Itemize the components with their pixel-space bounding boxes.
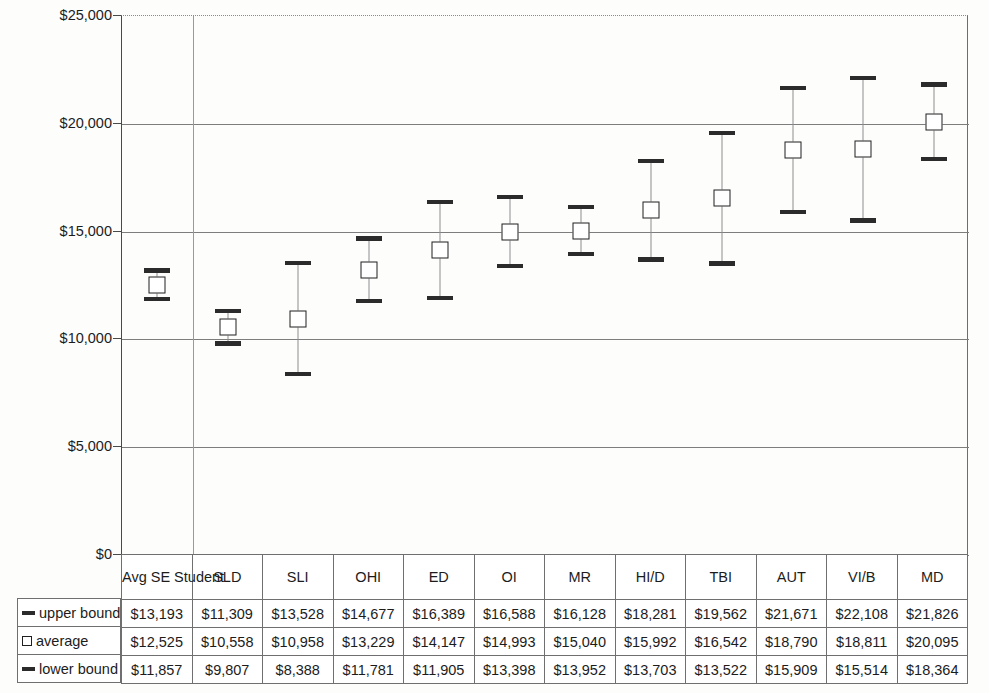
table-row: $13,193$11,309$13,528$14,677$16,389$16,5… (122, 600, 968, 628)
table-cell: $11,905 (404, 656, 475, 684)
category-header-cell: OHI (333, 555, 404, 600)
legend-square-icon (22, 636, 32, 646)
table-cell: $16,389 (404, 600, 475, 628)
table-cell: $16,542 (686, 628, 757, 656)
category-header-cell: SLI (263, 555, 334, 600)
table-cell: $22,108 (827, 600, 898, 628)
legend-dash-icon (22, 667, 35, 671)
average-marker (219, 319, 236, 336)
legend-row: upper bound (18, 599, 121, 627)
table-cell: $15,040 (545, 628, 616, 656)
upper-bound-marker (215, 309, 241, 313)
table-cell: $11,857 (122, 656, 193, 684)
average-marker (784, 141, 801, 158)
table-cell: $15,514 (827, 656, 898, 684)
error-bar-group (775, 16, 811, 555)
table-cell: $13,703 (615, 656, 686, 684)
table-header-row: Avg SE StudentSLDSLIOHIEDOIMRHI/DTBIAUTV… (122, 555, 968, 600)
y-axis-tick-label: $20,000 (16, 115, 112, 131)
category-header-cell: MD (897, 555, 968, 600)
legend-row: average (18, 627, 121, 655)
average-marker (502, 223, 519, 240)
table-cell: $9,807 (192, 656, 263, 684)
table-cell: $12,525 (122, 628, 193, 656)
table-cell: $13,522 (686, 656, 757, 684)
lower-bound-marker (921, 157, 947, 161)
table-cell: $13,398 (474, 656, 545, 684)
table-cell: $13,193 (122, 600, 193, 628)
table-cell: $8,388 (263, 656, 334, 684)
error-bar-group (563, 16, 599, 555)
legend-cell: upper bound (18, 599, 121, 627)
lower-bound-marker (638, 257, 664, 261)
lower-bound-marker (427, 296, 453, 300)
table-cell: $18,790 (756, 628, 827, 656)
table-cell: $18,364 (897, 656, 968, 684)
legend-row: lower bound (18, 655, 121, 683)
upper-bound-marker (921, 82, 947, 86)
lower-bound-marker (497, 264, 523, 268)
legend-dash-icon (22, 611, 35, 615)
y-axis-tick (113, 15, 121, 16)
y-axis-tick-label: $10,000 (16, 330, 112, 346)
y-axis-tick (113, 446, 121, 447)
y-axis-tick (113, 231, 121, 232)
upper-bound-marker (427, 200, 453, 204)
lower-bound-marker (215, 341, 241, 345)
table-cell: $20,095 (897, 628, 968, 656)
y-axis-tick-label: $5,000 (16, 438, 112, 454)
legend-cell: lower bound (18, 655, 121, 683)
table-cell: $13,528 (263, 600, 334, 628)
table-cell: $18,281 (615, 600, 686, 628)
legend-label: lower bound (39, 661, 118, 677)
y-axis-tick (113, 123, 121, 124)
error-bar-group (845, 16, 881, 555)
upper-bound-marker (709, 131, 735, 135)
y-axis-tick (113, 338, 121, 339)
table-cell: $10,958 (263, 628, 334, 656)
table-cell: $15,992 (615, 628, 686, 656)
y-axis-tick-label: $15,000 (16, 223, 112, 239)
y-axis-tick (113, 554, 121, 555)
lower-bound-marker (356, 299, 382, 303)
lower-bound-marker (144, 297, 170, 301)
average-marker (361, 261, 378, 278)
upper-bound-marker (497, 195, 523, 199)
error-bar-group (139, 16, 175, 555)
upper-bound-marker (144, 268, 170, 272)
error-bar-group (422, 16, 458, 555)
column-separator (193, 16, 194, 555)
average-marker (643, 202, 660, 219)
table-row: $12,525$10,558$10,958$13,229$14,147$14,9… (122, 628, 968, 656)
error-bar-group (633, 16, 669, 555)
category-header-cell: ED (404, 555, 475, 600)
y-axis-tick-label: $25,000 (16, 7, 112, 23)
average-marker (431, 241, 448, 258)
error-bar-group (351, 16, 387, 555)
upper-bound-marker (356, 236, 382, 240)
average-marker (572, 222, 589, 239)
upper-bound-marker (285, 261, 311, 265)
data-table-body: Avg SE StudentSLDSLIOHIEDOIMRHI/DTBIAUTV… (122, 555, 968, 684)
data-table: Avg SE StudentSLDSLIOHIEDOIMRHI/DTBIAUTV… (121, 554, 968, 684)
category-header-cell: MR (545, 555, 616, 600)
average-marker (713, 190, 730, 207)
average-marker (855, 141, 872, 158)
category-header-cell: OI (474, 555, 545, 600)
table-cell: $14,147 (404, 628, 475, 656)
error-bar-group (916, 16, 952, 555)
table-cell: $13,229 (333, 628, 404, 656)
table-row: $11,857$9,807$8,388$11,781$11,905$13,398… (122, 656, 968, 684)
average-marker (149, 276, 166, 293)
category-header-cell: TBI (686, 555, 757, 600)
table-cell: $21,826 (897, 600, 968, 628)
category-header-cell: VI/B (827, 555, 898, 600)
legend-label: upper bound (39, 605, 120, 621)
table-cell: $13,952 (545, 656, 616, 684)
legend-column: upper boundaveragelower bound (17, 598, 121, 683)
category-header-cell: HI/D (615, 555, 686, 600)
upper-bound-marker (780, 86, 806, 90)
table-cell: $18,811 (827, 628, 898, 656)
table-cell: $14,677 (333, 600, 404, 628)
category-header-cell: Avg SE Student (122, 555, 193, 600)
